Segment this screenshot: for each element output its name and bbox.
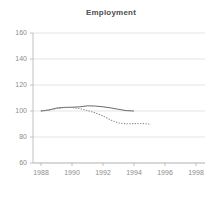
y-tick-label: 80 (3, 133, 27, 141)
x-tick-label: 1994 (119, 169, 149, 177)
x-tick-label: 1996 (150, 169, 180, 177)
axis-lines (33, 33, 205, 163)
x-tick-marks (30, 33, 196, 166)
gridlines (33, 33, 205, 163)
y-tick-label: 100 (3, 107, 27, 115)
x-tick-label: 1998 (181, 169, 211, 177)
series-line-dotted-line (41, 107, 150, 124)
x-tick-label: 1988 (26, 169, 56, 177)
y-tick-label: 140 (3, 55, 27, 63)
y-tick-label: 160 (3, 29, 27, 37)
x-tick-label: 1992 (88, 169, 118, 177)
y-tick-label: 60 (3, 159, 27, 167)
plot-area (0, 0, 222, 197)
x-tick-label: 1990 (57, 169, 87, 177)
data-series (41, 106, 150, 124)
y-tick-label: 120 (3, 81, 27, 89)
employment-chart: Employment 6080100120140160 198819901992… (0, 0, 222, 197)
